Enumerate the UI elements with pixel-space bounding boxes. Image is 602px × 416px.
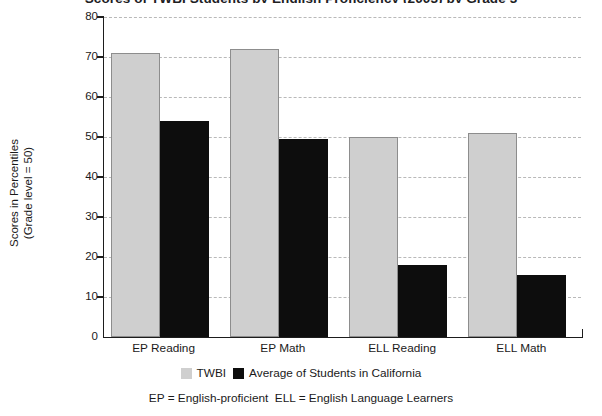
x-axis-label-3: ELL Math — [462, 341, 581, 355]
y-axis-tick-label: 50 — [64, 131, 98, 143]
plot-area — [104, 17, 581, 337]
gridline — [104, 17, 581, 18]
y-axis-tick — [97, 96, 104, 98]
y-axis-tick — [97, 56, 104, 58]
bar-twbi-0 — [111, 53, 160, 337]
bar-avg-0 — [160, 121, 209, 337]
bar-twbi-1 — [230, 49, 279, 337]
y-axis-title: Scores in Percentiles (Grade level = 50) — [2, 108, 40, 278]
y-axis-tick-label: 70 — [64, 51, 98, 63]
x-axis-label-1: EP Math — [223, 341, 342, 355]
legend-swatch-icon — [233, 368, 244, 379]
x-axis-category-labels: EP ReadingEP MathELL ReadingELL Math — [104, 341, 581, 359]
y-axis-tick-label: 20 — [64, 251, 98, 263]
bar-twbi-2 — [349, 137, 398, 337]
chart-footnote: EP = English-proficient ELL = English La… — [0, 391, 602, 405]
bar-avg-3 — [517, 275, 566, 337]
bar-chart: Scores of TWBI Students by English Profi… — [0, 0, 602, 416]
legend-label: Average of Students in California — [249, 366, 421, 380]
x-axis-label-0: EP Reading — [104, 341, 223, 355]
y-axis-title-line-2: (Grade level = 50) — [21, 139, 35, 247]
legend-item-twbi: TWBI — [181, 366, 227, 380]
y-axis-tick — [97, 176, 104, 178]
y-axis-tick-label: 80 — [64, 11, 98, 23]
y-axis-tick — [97, 136, 104, 138]
legend-swatch-icon — [181, 368, 192, 379]
y-axis-tick-label: 30 — [64, 211, 98, 223]
bar-avg-1 — [279, 139, 328, 337]
y-axis-tick-labels: 01020304050607080 — [60, 17, 98, 338]
y-axis-tick-label: 40 — [64, 171, 98, 183]
chart-title: Scores of TWBI Students by English Profi… — [0, 0, 602, 3]
y-axis-tick — [97, 16, 104, 18]
x-axis-right-cap — [582, 329, 583, 338]
y-axis-tick-label: 0 — [64, 331, 98, 343]
y-axis-tick-label: 60 — [64, 91, 98, 103]
y-axis-title-line-1: Scores in Percentiles — [7, 139, 21, 247]
y-axis-tick — [97, 216, 104, 218]
x-axis-label-2: ELL Reading — [343, 341, 462, 355]
y-axis-tick-label: 10 — [64, 291, 98, 303]
chart-legend: TWBIAverage of Students in California — [0, 366, 602, 380]
bar-twbi-3 — [468, 133, 517, 337]
y-axis-tick — [97, 256, 104, 258]
gridline — [104, 57, 581, 58]
legend-label: TWBI — [197, 366, 227, 380]
gridline — [104, 97, 581, 98]
bar-avg-2 — [398, 265, 447, 337]
legend-item-avg: Average of Students in California — [233, 366, 421, 380]
y-axis-tick — [97, 296, 104, 298]
